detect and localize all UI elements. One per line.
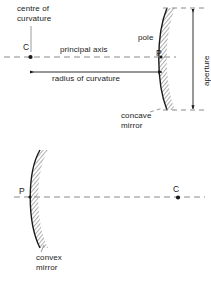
label-concave-mirror: concave mirror — [121, 111, 152, 131]
convex-mirror-figure — [14, 150, 205, 252]
label-principal-axis: principal axis — [60, 45, 108, 55]
label-aperture: aperture — [202, 55, 211, 86]
label-pole-point-p: P — [156, 48, 162, 58]
diagram-canvas — [0, 0, 211, 286]
label-centre-of-curvature: centre of curvature — [17, 4, 51, 24]
label-radius-of-curvature: radius of curvature — [52, 74, 120, 84]
optics-mirror-diagram: centre of curvature C principal axis pol… — [0, 0, 211, 286]
label-convex-mirror: convex mirror — [36, 253, 62, 273]
concave-mirror-hatching — [159, 8, 175, 110]
convex-mirror-hatching — [30, 150, 48, 248]
label-centre-of-curvature-point-c: C — [23, 42, 29, 52]
label-convex-centre-of-curvature-point-c: C — [173, 184, 179, 194]
centre-of-curvature-point — [28, 55, 32, 59]
convex-pole-point — [28, 195, 31, 198]
convex-centre-of-curvature-point — [176, 195, 180, 199]
label-pole: pole — [138, 33, 154, 43]
label-convex-pole-point-p: P — [19, 186, 25, 196]
